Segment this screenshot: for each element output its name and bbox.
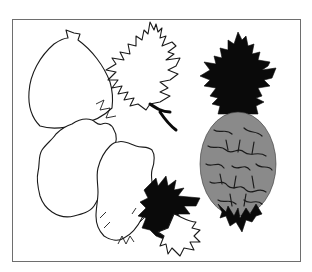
illustration-artwork xyxy=(0,0,312,272)
pineapple-body-icon xyxy=(200,112,276,216)
pineapple-crown-icon xyxy=(200,32,276,122)
fig-outline-icon xyxy=(29,30,113,128)
oak-leaf-stem-icon xyxy=(150,104,176,130)
oak-leaf-outline-icon xyxy=(106,22,180,110)
